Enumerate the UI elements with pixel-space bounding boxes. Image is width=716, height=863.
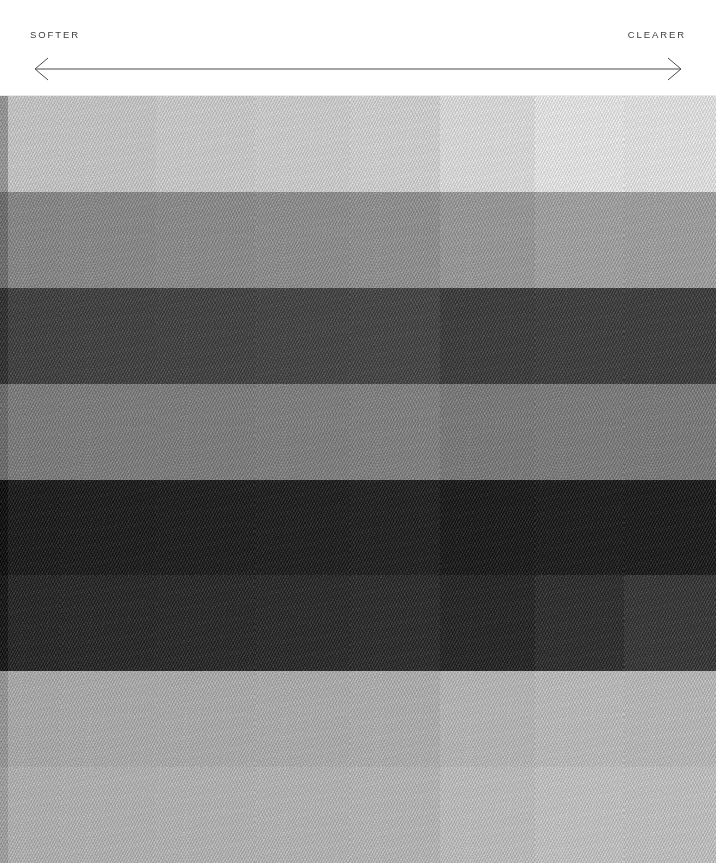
grid-tile-r7-c6 <box>350 671 440 767</box>
grid-tile-r7-c8 <box>535 671 624 767</box>
grid-tile-r1-c4 <box>156 96 255 192</box>
grid-tile-r4-c4 <box>156 384 255 480</box>
grid-tile-r5-c3 <box>60 480 156 576</box>
grid-tile-r4-c7 <box>440 384 535 480</box>
grid-tile-r4-c8 <box>535 384 624 480</box>
grid-tile-r5-c4 <box>156 480 255 576</box>
grid-tile-r8-c2 <box>8 767 60 863</box>
grid-tile-r1-c9 <box>624 96 716 192</box>
grid-tile-r2-c9 <box>624 192 716 288</box>
grid-tile-r2-c2 <box>8 192 60 288</box>
tile-grid <box>0 96 716 863</box>
grid-tile-r2-c7 <box>440 192 535 288</box>
grid-tile-r8-c9 <box>624 767 716 863</box>
grid-tile-r8-c1 <box>0 767 8 863</box>
grid-tile-r3-c1 <box>0 288 8 384</box>
grid-tile-r3-c5 <box>255 288 350 384</box>
grid-tile-r3-c6 <box>350 288 440 384</box>
grid-tile-r5-c2 <box>8 480 60 576</box>
grid-tile-r4-c1 <box>0 384 8 480</box>
axis-label-row: SOFTER CLEARER <box>30 27 686 43</box>
grid-tile-r4-c5 <box>255 384 350 480</box>
grid-tile-r5-c1 <box>0 480 8 576</box>
grid-tile-r6-c4 <box>156 575 255 671</box>
grid-tile-r1-c2 <box>8 96 60 192</box>
axis-label-softer: SOFTER <box>30 27 80 43</box>
grid-tile-r2-c6 <box>350 192 440 288</box>
grid-tile-r4-c3 <box>60 384 156 480</box>
double-headed-arrow-svg <box>28 55 688 83</box>
grid-tile-r3-c9 <box>624 288 716 384</box>
grid-tile-r1-c8 <box>535 96 624 192</box>
grid-tile-r3-c8 <box>535 288 624 384</box>
grid-tile-r5-c5 <box>255 480 350 576</box>
grid-tile-r1-c5 <box>255 96 350 192</box>
grid-tile-r7-c3 <box>60 671 156 767</box>
grid-tile-r2-c8 <box>535 192 624 288</box>
grid-tile-r3-c2 <box>8 288 60 384</box>
grid-tile-r5-c9 <box>624 480 716 576</box>
grid-tile-r6-c1 <box>0 575 8 671</box>
grid-tile-r2-c4 <box>156 192 255 288</box>
axis-header: SOFTER CLEARER <box>0 0 716 96</box>
grid-tile-r6-c3 <box>60 575 156 671</box>
grid-tile-r5-c8 <box>535 480 624 576</box>
grid-tile-r7-c9 <box>624 671 716 767</box>
grid-tile-r8-c4 <box>156 767 255 863</box>
grid-tile-r6-c9 <box>624 575 716 671</box>
grid-tile-r7-c2 <box>8 671 60 767</box>
grid-tile-r8-c5 <box>255 767 350 863</box>
grid-tile-r6-c6 <box>350 575 440 671</box>
grid-tile-r1-c7 <box>440 96 535 192</box>
double-headed-arrow-icon <box>28 55 688 83</box>
grid-tile-r7-c1 <box>0 671 8 767</box>
grid-tile-r8-c6 <box>350 767 440 863</box>
grid-tile-r2-c5 <box>255 192 350 288</box>
grid-tile-r2-c1 <box>0 192 8 288</box>
page-root: SOFTER CLEARER <box>0 0 716 863</box>
grid-tile-r4-c9 <box>624 384 716 480</box>
grid-tile-r1-c3 <box>60 96 156 192</box>
grid-tile-r3-c3 <box>60 288 156 384</box>
grid-tile-r6-c2 <box>8 575 60 671</box>
grid-tile-r5-c7 <box>440 480 535 576</box>
grid-tile-r8-c3 <box>60 767 156 863</box>
grid-tile-r7-c4 <box>156 671 255 767</box>
grid-tile-r6-c8 <box>535 575 624 671</box>
grid-tile-r5-c6 <box>350 480 440 576</box>
grid-tile-r2-c3 <box>60 192 156 288</box>
grid-tile-r8-c8 <box>535 767 624 863</box>
grid-tile-r8-c7 <box>440 767 535 863</box>
grid-tile-r7-c7 <box>440 671 535 767</box>
grid-tile-r7-c5 <box>255 671 350 767</box>
grid-tile-r3-c7 <box>440 288 535 384</box>
grid-tile-r6-c5 <box>255 575 350 671</box>
grid-tile-r3-c4 <box>156 288 255 384</box>
grid-tile-r1-c6 <box>350 96 440 192</box>
grid-tile-r4-c6 <box>350 384 440 480</box>
grid-tile-r6-c7 <box>440 575 535 671</box>
grid-tile-r1-c1 <box>0 96 8 192</box>
axis-label-clearer: CLEARER <box>628 27 686 43</box>
grid-tile-r4-c2 <box>8 384 60 480</box>
